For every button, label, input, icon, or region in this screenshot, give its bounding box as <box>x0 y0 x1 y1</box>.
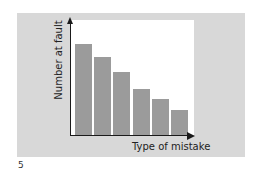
bar-2 <box>94 57 111 135</box>
page-number: 5 <box>18 160 24 170</box>
x-axis-label: Type of mistake <box>132 141 210 152</box>
x-axis <box>70 135 188 136</box>
bar-6 <box>171 110 188 135</box>
bar-3 <box>113 72 130 135</box>
bar-1 <box>75 44 92 135</box>
y-axis-arrow-icon <box>67 17 73 24</box>
y-axis-label: Number at fault <box>53 20 64 99</box>
bar-4 <box>133 89 150 135</box>
x-axis-arrow-icon <box>187 132 195 140</box>
bar-5 <box>152 99 169 135</box>
y-axis <box>70 22 71 135</box>
